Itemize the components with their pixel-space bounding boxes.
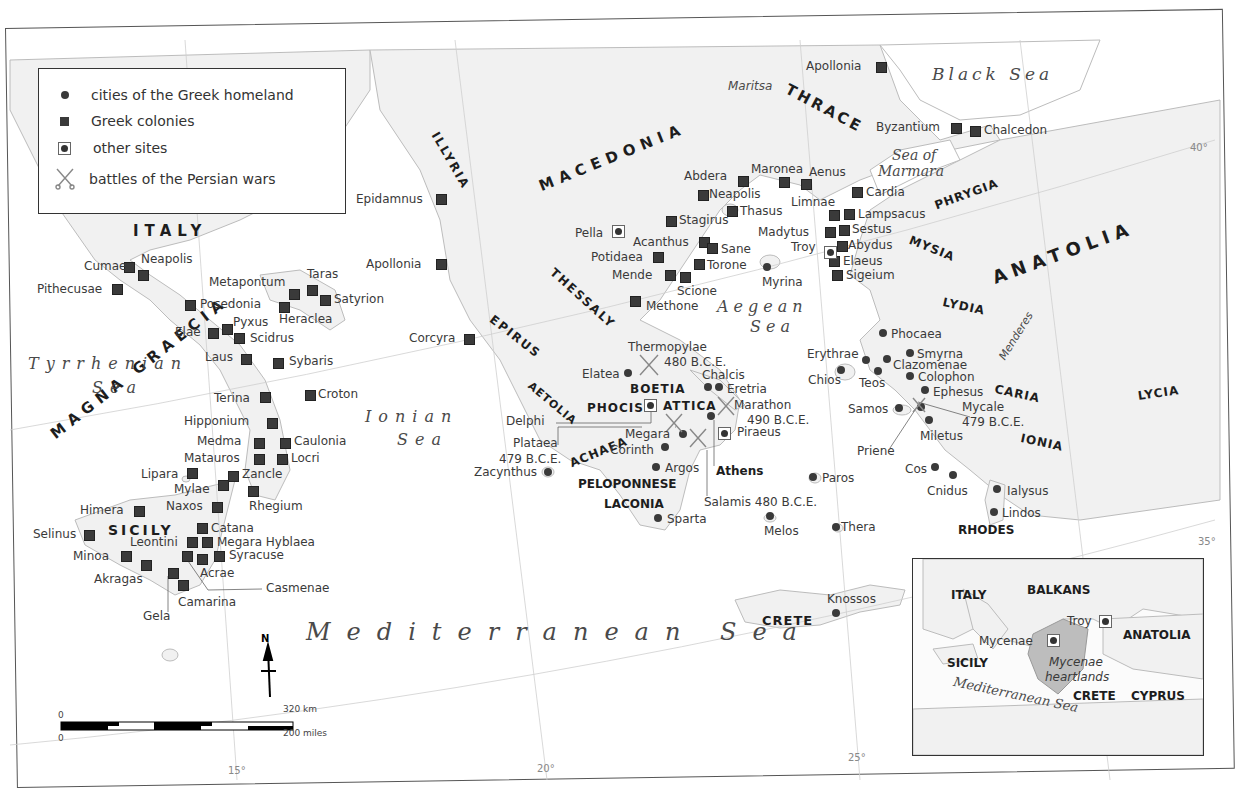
label-laus: Laus [205, 351, 233, 363]
city-marker [766, 512, 774, 520]
inset-italy: ITALY [951, 589, 986, 601]
crossed-swords-icon [55, 167, 75, 191]
label-naxos: Naxos [166, 500, 203, 512]
graticule-lon-15: 15° [228, 765, 246, 776]
scale-bar [61, 722, 293, 730]
label-caulonia: Caulonia [294, 435, 346, 447]
colony-marker [254, 438, 265, 449]
inset-heartlands-1: Mycenae [1049, 656, 1103, 668]
label-selinus: Selinus [33, 528, 76, 540]
colony-marker [187, 537, 198, 548]
region-boetia: BOETIA [630, 383, 685, 395]
label-madytus: Madytus [758, 226, 809, 238]
label-scidrus: Scidrus [250, 332, 294, 344]
label-myrina: Myrina [762, 276, 803, 288]
label-sigeium: Sigeium [846, 269, 895, 281]
label-megara-hyblaea: Megara Hyblaea [217, 536, 315, 548]
city-marker [707, 412, 715, 420]
label-athens: Athens [716, 465, 763, 477]
city-marker [990, 508, 998, 516]
inset-troy: Troy [1067, 615, 1092, 627]
other-site-marker-delphi [644, 399, 657, 412]
colony-marker [951, 123, 962, 134]
colony-marker [844, 209, 855, 220]
label-acrae: Acrae [200, 567, 234, 579]
label-matauros: Matauros [184, 452, 240, 464]
label-elatea: Elatea [582, 368, 620, 380]
sea-mediterranean: Mediterranean Sea [306, 620, 813, 644]
label-priene: Priene [857, 445, 895, 457]
inset-balkans: BALKANS [1027, 584, 1090, 596]
colony-marker [464, 334, 475, 345]
colony-marker [839, 225, 850, 236]
region-phocis: PHOCIS [587, 402, 644, 414]
label-ephesus: Ephesus [933, 386, 983, 398]
sea-ionian-1: Ionian [365, 409, 458, 425]
colony-marker [707, 243, 718, 254]
colony-marker [779, 177, 790, 188]
label-corcyra: Corcyra [409, 332, 455, 344]
sea-ionian-2: Sea [397, 432, 448, 448]
colony-marker [197, 554, 208, 565]
colony-marker [680, 272, 691, 283]
colony-marker [698, 190, 709, 201]
label-lindos: Lindos [1002, 507, 1041, 519]
label-teos: Teos [859, 377, 885, 389]
label-zancle: Zancle [242, 468, 283, 480]
colony-marker [112, 284, 123, 295]
colony-marker [234, 333, 245, 344]
colony-marker [436, 259, 447, 270]
label-thasus: Thasus [740, 205, 782, 217]
graticule-lat-40: 40° [1190, 142, 1208, 153]
colony-marker [876, 62, 887, 73]
city-marker [862, 356, 870, 364]
label-samos: Samos [848, 403, 888, 415]
label-piraeus: Piraeus [737, 426, 781, 438]
city-marker [704, 383, 712, 391]
label-elae: Elae [175, 326, 201, 338]
colony-marker [289, 289, 300, 300]
label-thermopylae: Thermopylae [628, 341, 707, 353]
north-arrow-icon [261, 645, 276, 697]
colony-marker [436, 194, 447, 205]
city-marker [883, 355, 891, 363]
colony-marker [254, 454, 265, 465]
colony-marker [829, 210, 840, 221]
city-marker [624, 369, 632, 377]
colony-marker [694, 259, 705, 270]
region-peloponnese: PELOPONNESE [578, 478, 677, 490]
label-chios: Chios [808, 374, 841, 386]
inset-anatolia: ANATOLIA [1123, 629, 1190, 641]
sea-aegean-1: Aegean [717, 299, 808, 315]
dot-icon [61, 91, 69, 99]
label-plataea: Plataea [513, 437, 558, 449]
colony-marker [837, 241, 848, 252]
legend-item-homeland: cities of the Greek homeland [55, 87, 294, 103]
label-metapontum: Metapontum [209, 276, 285, 288]
label-erythrae: Erythrae [807, 348, 859, 360]
label-megara: Megara [625, 428, 670, 440]
label-thermopylae-year: 480 B.C.E. [664, 356, 726, 368]
inset-map: ITALY BALKANS Troy ANATOLIA Mycenae SICI… [912, 558, 1204, 756]
colony-marker [307, 285, 318, 296]
label-camarina: Camarina [178, 596, 236, 608]
label-terina: Terina [214, 392, 250, 404]
label-mylae: Mylae [174, 483, 210, 495]
label-phocaea: Phocaea [891, 328, 942, 340]
label-salamis: Salamis 480 B.C.E. [704, 496, 817, 508]
label-knossos: Knossos [827, 593, 876, 605]
map-legend: cities of the Greek homeland Greek colon… [38, 68, 346, 214]
label-elaeus: Elaeus [843, 255, 883, 267]
label-argos: Argos [665, 462, 699, 474]
sea-black: Black Sea [932, 66, 1053, 83]
colony-marker [825, 227, 836, 238]
sea-aegean-2: Sea [750, 319, 795, 335]
colony-marker [222, 324, 233, 335]
inset-troy-marker [1099, 615, 1112, 628]
label-posedonia: Posedonia [200, 298, 261, 310]
label-potidaea: Potidaea [591, 251, 643, 263]
label-byzantium: Byzantium [876, 121, 940, 133]
square-icon [60, 117, 69, 126]
colony-marker [630, 296, 641, 307]
city-marker [895, 404, 903, 412]
